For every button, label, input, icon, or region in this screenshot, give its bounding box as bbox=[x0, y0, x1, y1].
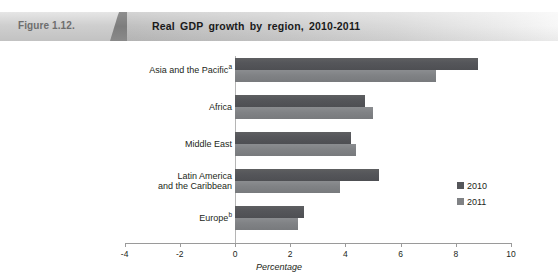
bar-2010 bbox=[235, 95, 365, 107]
figure-number-label: Figure 1.12. bbox=[18, 20, 75, 31]
x-axis-tick-label: 2 bbox=[277, 249, 303, 259]
legend-label-2010: 2010 bbox=[467, 181, 487, 191]
category-label: Africa bbox=[209, 102, 232, 113]
x-axis-tick-label: 6 bbox=[388, 249, 414, 259]
legend-item: 2010 bbox=[457, 179, 487, 192]
x-axis-tick bbox=[345, 243, 346, 247]
x-axis-line bbox=[125, 243, 511, 244]
x-axis-tick-label: 4 bbox=[332, 249, 358, 259]
x-axis-tick-label: 8 bbox=[443, 249, 469, 259]
legend-swatch-2010 bbox=[457, 182, 464, 189]
legend-swatch-2011 bbox=[457, 198, 464, 205]
x-axis-tick-label: 10 bbox=[498, 249, 524, 259]
x-axis-tick-label: 0 bbox=[222, 249, 248, 259]
x-axis-tick-label: -2 bbox=[167, 249, 193, 259]
legend-item: 2011 bbox=[457, 195, 487, 208]
x-axis-title: Percentage bbox=[0, 262, 558, 272]
bar-2011 bbox=[235, 70, 436, 82]
x-axis-tick-label: -4 bbox=[112, 249, 138, 259]
category-label: Europeb bbox=[199, 213, 232, 224]
bar-2010 bbox=[235, 132, 351, 144]
legend-label-2011: 2011 bbox=[467, 197, 486, 207]
x-axis-tick bbox=[235, 243, 236, 247]
category-label: Middle East bbox=[185, 139, 232, 150]
category-label: Latin Americaand the Caribbean bbox=[158, 171, 232, 192]
x-axis-tick bbox=[456, 243, 457, 247]
bar-2010 bbox=[235, 58, 478, 70]
x-axis-tick bbox=[180, 243, 181, 247]
plot-area: Asia and the PacificaAfricaMiddle EastLa… bbox=[0, 48, 558, 279]
x-axis-tick bbox=[511, 243, 512, 247]
figure-header-banner: Figure 1.12. Real GDP growth by region, … bbox=[0, 12, 558, 41]
x-axis-tick bbox=[401, 243, 402, 247]
category-label: Asia and the Pacifica bbox=[149, 65, 232, 76]
x-axis-tick bbox=[290, 243, 291, 247]
figure-title: Real GDP growth by region, 2010-2011 bbox=[152, 20, 360, 32]
bar-2011 bbox=[235, 218, 298, 230]
bar-2010 bbox=[235, 206, 304, 218]
x-axis-tick bbox=[125, 243, 126, 247]
bar-chart: Asia and the PacificaAfricaMiddle EastLa… bbox=[0, 48, 558, 279]
bar-2011 bbox=[235, 181, 340, 193]
chart-legend: 2010 2011 bbox=[457, 179, 487, 211]
bar-2011 bbox=[235, 144, 356, 156]
bar-2011 bbox=[235, 107, 373, 119]
bar-2010 bbox=[235, 169, 379, 181]
